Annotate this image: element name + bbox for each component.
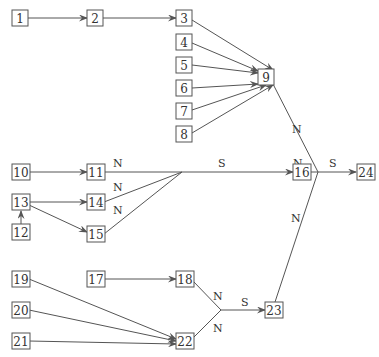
svg-text:2: 2 xyxy=(91,12,99,26)
edge-label: N xyxy=(113,204,123,217)
svg-text:14: 14 xyxy=(88,196,104,210)
edge-3-9 xyxy=(192,20,273,70)
svg-text:6: 6 xyxy=(180,82,188,96)
node-8[interactable]: 8 xyxy=(176,126,192,142)
svg-text:21: 21 xyxy=(13,335,28,349)
node-19[interactable]: 19 xyxy=(12,271,30,287)
node-12[interactable]: 12 xyxy=(12,224,30,240)
edge-label: S xyxy=(218,157,226,170)
node-10[interactable]: 10 xyxy=(12,164,30,180)
svg-text:15: 15 xyxy=(88,228,103,242)
node-3[interactable]: 3 xyxy=(176,10,192,26)
svg-text:13: 13 xyxy=(13,196,28,210)
node-21[interactable]: 21 xyxy=(12,333,30,349)
node-4[interactable]: 4 xyxy=(176,34,192,50)
edge-7-9 xyxy=(192,85,266,110)
edge-label: S xyxy=(329,157,337,170)
edge-4-9 xyxy=(192,43,258,71)
svg-text:4: 4 xyxy=(180,36,188,50)
svg-text:7: 7 xyxy=(180,105,188,119)
svg-text:20: 20 xyxy=(13,304,28,318)
node-24[interactable]: 24 xyxy=(357,164,375,180)
node-6[interactable]: 6 xyxy=(176,80,192,96)
node-17[interactable]: 17 xyxy=(87,271,105,287)
svg-text:8: 8 xyxy=(180,128,188,142)
svg-text:16: 16 xyxy=(294,166,309,180)
edge-20-22 xyxy=(29,310,176,341)
svg-text:1: 1 xyxy=(16,12,24,26)
node-23[interactable]: 23 xyxy=(265,302,283,318)
edge-labels: N N N S N N S N N N S xyxy=(113,123,337,335)
node-20[interactable]: 20 xyxy=(12,302,30,318)
node-22[interactable]: 22 xyxy=(176,333,194,349)
svg-text:3: 3 xyxy=(180,12,188,26)
edge-label: N xyxy=(291,212,301,225)
svg-text:10: 10 xyxy=(13,166,28,180)
svg-text:18: 18 xyxy=(177,273,192,287)
node-5[interactable]: 5 xyxy=(176,57,192,73)
edge-label: N xyxy=(213,290,223,303)
node-2[interactable]: 2 xyxy=(87,10,103,26)
edge-label: N xyxy=(113,157,123,170)
svg-text:12: 12 xyxy=(13,226,28,240)
node-11[interactable]: 11 xyxy=(87,164,105,180)
diagram-svg: N N N S N N S N N N S 1 2 3 4 5 6 7 8 9 … xyxy=(0,0,379,357)
edge-5-9 xyxy=(192,65,258,73)
edge-13-15 xyxy=(29,205,87,232)
nodes: 1 2 3 4 5 6 7 8 9 10 11 13 14 12 15 16 2… xyxy=(12,10,375,349)
edge-6-9 xyxy=(192,84,258,88)
node-9[interactable]: 9 xyxy=(258,69,274,85)
node-1[interactable]: 1 xyxy=(12,10,28,26)
svg-text:24: 24 xyxy=(358,166,374,180)
edge-label: N xyxy=(292,123,302,136)
svg-text:19: 19 xyxy=(13,273,28,287)
svg-text:5: 5 xyxy=(180,59,188,73)
edge-label: S xyxy=(241,296,249,309)
node-13[interactable]: 13 xyxy=(12,194,30,210)
edge-23-junction xyxy=(275,172,318,302)
flow-diagram: N N N S N N S N N N S 1 2 3 4 5 6 7 8 9 … xyxy=(0,0,379,357)
edge-label: N xyxy=(213,322,223,335)
edge-19-22 xyxy=(29,279,176,339)
svg-text:11: 11 xyxy=(88,166,103,180)
svg-text:23: 23 xyxy=(266,304,281,318)
node-18[interactable]: 18 xyxy=(176,271,194,287)
svg-text:17: 17 xyxy=(88,273,103,287)
node-16[interactable]: 16 xyxy=(293,164,311,180)
svg-text:22: 22 xyxy=(177,335,192,349)
edge-21-22 xyxy=(29,341,176,344)
node-15[interactable]: 15 xyxy=(87,226,105,242)
node-7[interactable]: 7 xyxy=(176,103,192,119)
edge-8-9 xyxy=(192,85,273,133)
node-14[interactable]: 14 xyxy=(87,194,105,210)
svg-text:9: 9 xyxy=(262,71,270,85)
edge-label: N xyxy=(113,181,123,194)
